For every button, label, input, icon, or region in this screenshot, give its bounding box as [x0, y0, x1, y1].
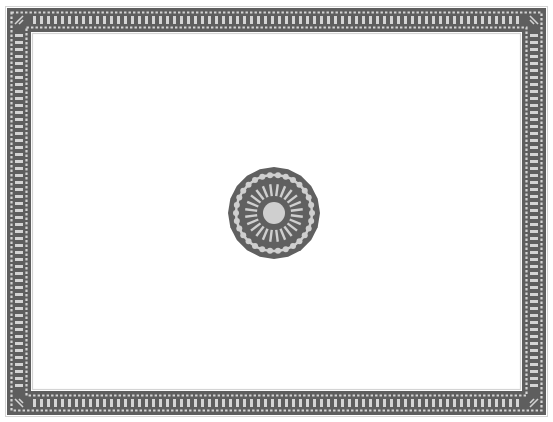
central-medallion-ornament [228, 167, 320, 259]
ornament-canvas [0, 0, 553, 422]
